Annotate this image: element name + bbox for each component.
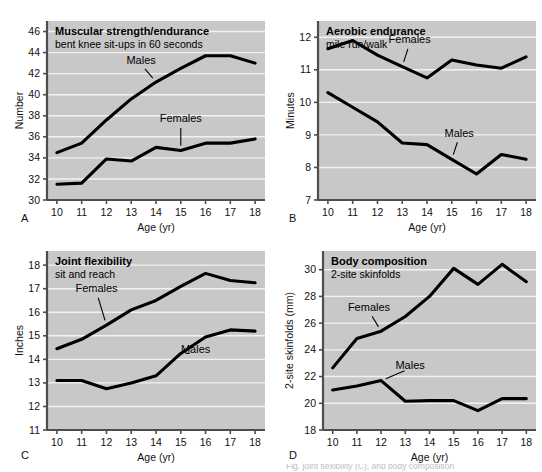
x-tick-label: 11 bbox=[347, 206, 358, 218]
y-tick-label: 8 bbox=[305, 161, 311, 173]
y-tick-label: 32 bbox=[28, 173, 40, 185]
x-tick-label: 16 bbox=[200, 436, 212, 448]
x-tick-label: 11 bbox=[76, 206, 87, 218]
y-tick-label: 18 bbox=[28, 259, 40, 271]
y-tick-label: 17 bbox=[28, 282, 40, 294]
x-tick-label: 18 bbox=[520, 206, 532, 218]
y-tick-label: 15 bbox=[28, 329, 40, 341]
series-label-females: Females bbox=[389, 33, 432, 45]
x-tick-label: 10 bbox=[51, 206, 63, 218]
x-tick-label: 16 bbox=[200, 206, 212, 218]
x-tick-label: 11 bbox=[76, 436, 87, 448]
chart-svg-d: 18202224262830101112131415161718Age (yr)… bbox=[271, 236, 542, 472]
y-tick-label: 10 bbox=[299, 96, 311, 108]
x-tick-label: 18 bbox=[520, 436, 532, 448]
x-tick-label: 10 bbox=[322, 206, 334, 218]
y-tick-label: 34 bbox=[28, 151, 40, 163]
series-label-males: Males bbox=[126, 54, 156, 66]
x-tick-label: 13 bbox=[125, 436, 137, 448]
panel-letter-d: D bbox=[289, 449, 297, 461]
x-tick-label: 10 bbox=[51, 436, 63, 448]
chart-subtitle: 2-site skinfolds bbox=[331, 268, 400, 280]
x-tick-label: 13 bbox=[399, 436, 411, 448]
chart-panel-a: 303234363840424446101112131415161718Age … bbox=[0, 0, 271, 236]
y-tick-label: 20 bbox=[304, 397, 316, 409]
chart-subtitle: sit and reach bbox=[55, 268, 115, 280]
y-tick-label: 9 bbox=[305, 129, 311, 141]
x-tick-label: 17 bbox=[224, 206, 236, 218]
chart-svg-b: 789101112101112131415161718Age (yr)Minut… bbox=[271, 0, 542, 236]
y-tick-label: 36 bbox=[28, 130, 40, 142]
chart-panel-b: 789101112101112131415161718Age (yr)Minut… bbox=[271, 0, 542, 236]
y-axis-label: Number bbox=[13, 91, 25, 129]
chart-title: Joint flexibility bbox=[55, 255, 133, 267]
x-tick-label: 14 bbox=[424, 436, 436, 448]
chart-title: Muscular strength/endurance bbox=[55, 25, 209, 37]
caption-fragment: Fig. joint flexibility (C), and body com… bbox=[286, 464, 454, 471]
x-tick-label: 18 bbox=[249, 436, 261, 448]
x-tick-label: 15 bbox=[175, 206, 187, 218]
series-label-females: Females bbox=[160, 112, 203, 124]
y-tick-label: 30 bbox=[304, 263, 316, 275]
x-tick-label: 15 bbox=[446, 206, 458, 218]
chart-panel-d: 18202224262830101112131415161718Age (yr)… bbox=[271, 236, 542, 472]
y-tick-label: 12 bbox=[28, 400, 40, 412]
x-tick-label: 18 bbox=[249, 206, 261, 218]
y-tick-label: 24 bbox=[304, 343, 316, 355]
y-tick-label: 13 bbox=[28, 376, 40, 388]
y-tick-label: 44 bbox=[28, 46, 40, 58]
x-tick-label: 14 bbox=[150, 436, 162, 448]
y-tick-label: 38 bbox=[28, 109, 40, 121]
x-axis-label: Age (yr) bbox=[408, 221, 445, 233]
x-tick-label: 10 bbox=[327, 436, 339, 448]
chart-subtitle: bent knee sit-ups in 60 seconds bbox=[55, 38, 203, 50]
x-tick-label: 17 bbox=[224, 436, 236, 448]
panel-letter-c: C bbox=[21, 449, 29, 461]
x-axis-label: Age (yr) bbox=[137, 221, 174, 233]
x-tick-label: 13 bbox=[396, 206, 408, 218]
figure-four-panel-fitness-charts: 303234363840424446101112131415161718Age … bbox=[0, 0, 542, 472]
chart-title: Body composition bbox=[331, 255, 427, 267]
x-tick-label: 15 bbox=[448, 436, 460, 448]
x-tick-label: 13 bbox=[125, 206, 137, 218]
x-tick-label: 16 bbox=[472, 436, 484, 448]
chart-svg-c: 1112131415161718101112131415161718Age (y… bbox=[0, 236, 271, 472]
y-tick-label: 18 bbox=[304, 424, 316, 436]
panel-letter-a: A bbox=[21, 212, 28, 224]
x-tick-label: 12 bbox=[101, 436, 113, 448]
y-tick-label: 11 bbox=[29, 424, 40, 436]
x-tick-label: 17 bbox=[495, 206, 507, 218]
x-tick-label: 14 bbox=[421, 206, 433, 218]
x-tick-label: 11 bbox=[351, 436, 362, 448]
chart-svg-a: 303234363840424446101112131415161718Age … bbox=[0, 0, 271, 236]
x-axis-label: Age (yr) bbox=[411, 451, 448, 463]
y-tick-label: 46 bbox=[28, 25, 40, 37]
x-tick-label: 14 bbox=[150, 206, 162, 218]
bottom-caption-strip: Fig. joint flexibility (C), and body com… bbox=[0, 464, 542, 472]
series-label-males: Males bbox=[181, 343, 211, 355]
y-tick-label: 42 bbox=[28, 67, 40, 79]
series-label-males: Males bbox=[445, 127, 475, 139]
y-tick-label: 22 bbox=[304, 370, 316, 382]
x-tick-label: 17 bbox=[496, 436, 508, 448]
chart-panel-c: 1112131415161718101112131415161718Age (y… bbox=[0, 236, 271, 472]
x-tick-label: 16 bbox=[471, 206, 483, 218]
y-tick-label: 28 bbox=[304, 290, 316, 302]
x-tick-label: 12 bbox=[372, 206, 384, 218]
y-tick-label: 16 bbox=[28, 306, 40, 318]
y-axis-label: Minutes bbox=[284, 92, 296, 129]
x-tick-label: 12 bbox=[101, 206, 113, 218]
y-tick-label: 12 bbox=[299, 31, 311, 43]
series-label-males: Males bbox=[395, 359, 425, 371]
x-tick-label: 15 bbox=[175, 436, 187, 448]
series-label-females: Females bbox=[75, 282, 118, 294]
x-axis-label: Age (yr) bbox=[137, 451, 174, 463]
panel-letter-b: B bbox=[289, 212, 296, 224]
x-tick-label: 12 bbox=[375, 436, 387, 448]
y-tick-label: 14 bbox=[28, 353, 40, 365]
y-tick-label: 40 bbox=[28, 88, 40, 100]
y-axis-label: Inches bbox=[13, 325, 25, 356]
y-tick-label: 30 bbox=[28, 194, 40, 206]
y-tick-label: 7 bbox=[305, 194, 311, 206]
y-tick-label: 26 bbox=[304, 317, 316, 329]
